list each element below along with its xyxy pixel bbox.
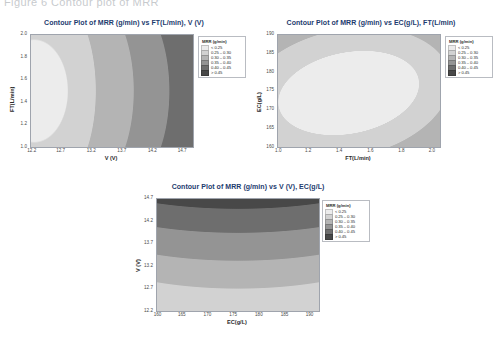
- contour-plot-3: Contour Plot of MRR (g/min) vs V (V), EC…: [126, 180, 370, 346]
- x-tick: 165: [178, 312, 186, 317]
- x-tick: 12.2: [27, 148, 36, 153]
- x-tick: 1.2: [305, 148, 311, 153]
- plot-3-title: Contour Plot of MRR (g/min) vs V (V), EC…: [126, 183, 370, 190]
- x-tick: 180: [255, 312, 263, 317]
- x-tick: 13.2: [87, 148, 96, 153]
- cut-off-heading: Figure 6 Contour plot of MRR: [4, 0, 159, 8]
- plot-2-title: Contour Plot of MRR (g/min) vs EC(g/L), …: [249, 19, 493, 26]
- y-tick: 2.0: [21, 31, 27, 36]
- legend-swatch: [448, 70, 456, 76]
- y-tick: 170: [266, 106, 274, 111]
- plot-1-canvas: [30, 34, 194, 148]
- x-tick: 1.0: [275, 148, 281, 153]
- plot-1-title: Contour Plot of MRR (g/min) vs FT(L/min)…: [2, 19, 246, 26]
- x-tick: 175: [229, 312, 237, 317]
- plot-2-x-ticks: 1.0 1.2 1.4 1.6 1.8 2.0: [277, 148, 439, 153]
- contour-plot-2: Contour Plot of MRR (g/min) vs EC(g/L), …: [249, 14, 493, 176]
- legend-label: > 0.45: [335, 234, 346, 239]
- y-tick: 13.2: [144, 263, 153, 268]
- y-tick: 175: [266, 87, 274, 92]
- x-tick: 1.8: [398, 148, 404, 153]
- x-tick: 185: [281, 312, 289, 317]
- x-tick: 160: [154, 312, 162, 317]
- y-tick: 1.6: [21, 76, 27, 81]
- plot-3-canvas: [156, 198, 320, 312]
- plot-2-y-axis-label: EC(g/L): [256, 92, 262, 112]
- plot-1-y-axis-label: FT(L/min): [9, 87, 15, 112]
- x-tick: 12.7: [56, 148, 65, 153]
- y-tick: 185: [266, 50, 274, 55]
- legend-label: > 0.45: [211, 70, 222, 75]
- plot-1-x-ticks: 12.2 12.7 13.2 13.7 14.2 14.7: [30, 148, 192, 153]
- legend-label: > 0.45: [458, 70, 469, 75]
- x-tick: 13.7: [117, 148, 126, 153]
- y-tick: 1.2: [21, 121, 27, 126]
- x-tick: 14.7: [178, 148, 187, 153]
- legend-swatch: [325, 234, 333, 240]
- plot-2-canvas: [277, 34, 441, 148]
- contour-bands-2: [277, 34, 441, 148]
- x-tick: 14.2: [148, 148, 157, 153]
- y-tick: 14.2: [144, 218, 153, 223]
- legend-title: MRR (g/min): [449, 39, 490, 44]
- legend-title: MRR (g/min): [202, 39, 243, 44]
- contour-curvature-3: [157, 199, 319, 311]
- y-tick: 190: [266, 31, 274, 36]
- legend-item: > 0.45: [325, 234, 367, 239]
- y-tick: 1.8: [21, 54, 27, 59]
- y-tick: 1.4: [21, 99, 27, 104]
- plot-2-legend: MRR (g/min) < 0.25 0.25 – 0.30 0.30 – 0.…: [445, 36, 493, 78]
- x-tick: 2.0: [429, 148, 435, 153]
- x-tick: 1.4: [336, 148, 342, 153]
- y-tick: 1.0: [21, 144, 27, 149]
- legend-title: MRR (g/min): [326, 203, 367, 208]
- legend-item: > 0.45: [448, 70, 490, 75]
- x-tick: 1.6: [367, 148, 373, 153]
- y-tick: 165: [266, 125, 274, 130]
- plot-2-y-ticks: 190 185 180 175 170 165 160: [257, 31, 274, 149]
- plot-3-legend: MRR (g/min) < 0.25 0.25 – 0.30 0.30 – 0.…: [322, 200, 370, 242]
- plot-1-legend: MRR (g/min) < 0.25 0.25 – 0.30 0.30 – 0.…: [198, 36, 246, 78]
- legend-item: > 0.45: [201, 70, 243, 75]
- plot-3-y-axis-label: V (V): [135, 259, 141, 272]
- plot-2-x-axis-label: FT(L/min): [277, 155, 439, 161]
- legend-swatch: [201, 70, 209, 76]
- y-tick: 14.7: [144, 195, 153, 200]
- y-tick: 12.2: [144, 308, 153, 313]
- plot-3-x-axis-label: EC(g/L): [156, 319, 318, 325]
- y-tick: 180: [266, 69, 274, 74]
- plot-3-x-ticks: 160 165 170 175 180 185 190: [156, 312, 318, 317]
- x-tick: 190: [306, 312, 314, 317]
- plot-1-x-axis-label: V (V): [30, 155, 192, 161]
- contour-plot-1: Contour Plot of MRR (g/min) vs FT(L/min)…: [2, 14, 246, 176]
- plot-3-y-ticks: 14.7 14.2 13.7 13.2 12.7 12.2: [136, 195, 153, 313]
- contour-curvature-1: [31, 35, 193, 147]
- y-tick: 12.7: [144, 285, 153, 290]
- x-tick: 170: [204, 312, 212, 317]
- y-tick: 160: [266, 144, 274, 149]
- y-tick: 13.7: [144, 240, 153, 245]
